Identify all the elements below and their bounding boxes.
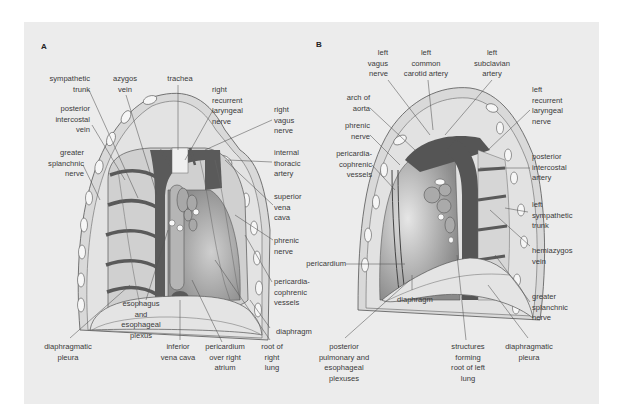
- label-diaphragm-a: diaphragm: [276, 327, 322, 338]
- label-phrenic-nerve: phrenic nerve: [274, 236, 314, 257]
- label-hemiazygos-vein: hemiazygos vein: [532, 246, 582, 267]
- label-esophagus-and-esophageal-plexus: esophagus and esophageal plexus: [116, 299, 166, 341]
- label-superior-vena-cava: superior vena cava: [274, 192, 314, 224]
- label-right-recurrent-laryngeal-nerve: right recurrent laryngeal nerve: [212, 85, 262, 127]
- label-pericardium: pericardium: [296, 259, 346, 270]
- panel-a-letter: A: [41, 42, 47, 51]
- label-internal-thoracic-artery: internal thoracic artery: [274, 148, 314, 180]
- label-right-vagus-nerve: right vagus nerve: [274, 105, 314, 137]
- label-pericardium-over-right-atrium: pericardium over right atrium: [200, 342, 250, 374]
- label-inferior-vena-cava: inferior vena cava: [157, 342, 199, 363]
- label-left-subclavian-artery: left subclavian artery: [469, 48, 515, 80]
- panel-b-letter: B: [316, 40, 322, 49]
- label-left-common-carotid-artery: left common carotid artery: [398, 48, 454, 80]
- label-left-vagus-nerve: left vagus nerve: [360, 48, 388, 80]
- label-posterior-intercostal-artery: posterior intercostal artery: [532, 152, 582, 184]
- label-posterior-pulmonary-and-esophageal-plexuses: posterior pulmonary and esophageal plexu…: [313, 342, 375, 384]
- label-left-recurrent-laryngeal-nerve: left recurrent laryngeal nerve: [532, 85, 582, 127]
- label-pericardiacophrenic-vessels-b: pericardia- cophrenic vessels: [320, 149, 372, 181]
- label-sympathetic-trunk: sympathetic trunk: [38, 74, 90, 95]
- label-greater-splanchnic-nerve: greater splanchnic nerve: [38, 148, 84, 180]
- label-posterior-intercostal-vein: posterior intercostal vein: [38, 104, 90, 136]
- panel-a-drawing: [78, 93, 271, 340]
- label-trachea: trachea: [164, 74, 196, 85]
- label-diaphragmatic-pleura-a: diaphragmatic pleura: [38, 342, 98, 363]
- label-root-of-right-lung: root of right lung: [255, 342, 289, 374]
- label-left-sympathetic-trunk: left sympathetic trunk: [532, 200, 582, 232]
- label-diaphragm-b: diaphragm: [397, 295, 443, 306]
- label-azygos-vein: azygos vein: [107, 74, 143, 95]
- label-pericardiacophrenic-vessels-a: pericardia- cophrenic vessels: [274, 277, 320, 309]
- label-structures-forming-root-of-left-lung: structures forming root of left lung: [443, 342, 493, 384]
- label-diaphragmatic-pleura-b: diaphragmatic pleura: [498, 342, 560, 363]
- label-arch-of-aorta: arch of aorta: [330, 93, 370, 114]
- label-phrenic-nerve-b: phrenic nerve: [330, 121, 370, 142]
- label-greater-splanchnic-nerve-b: greater splanchnic nerve: [532, 292, 582, 324]
